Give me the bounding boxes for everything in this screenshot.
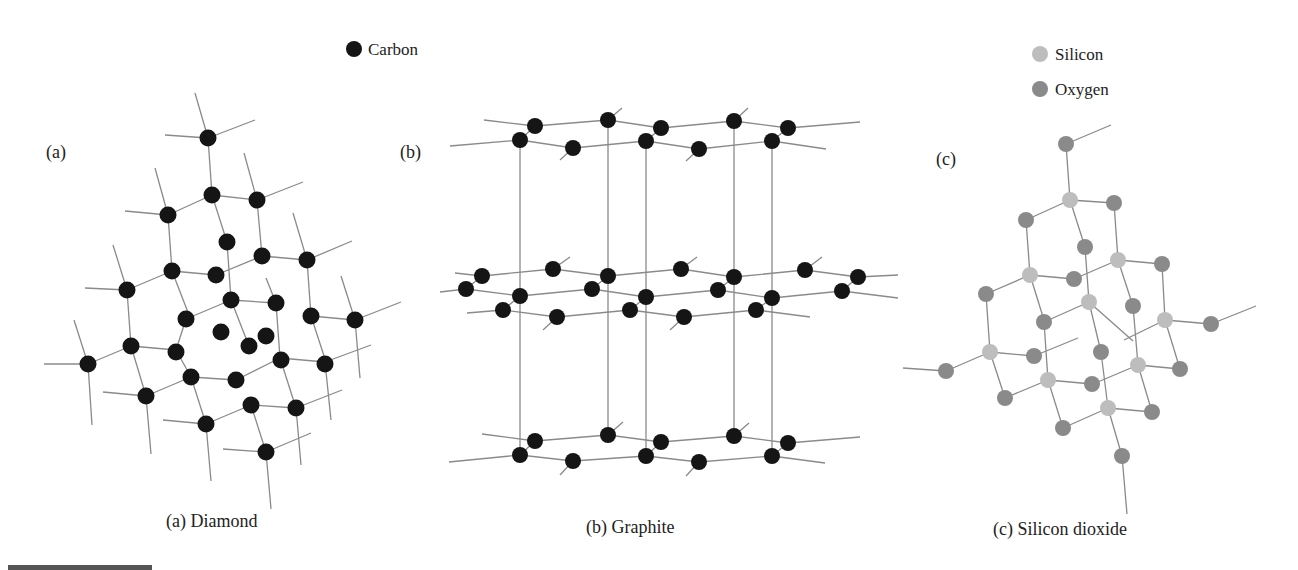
panel-c-tag: (c) [936, 149, 956, 170]
caption-silicon-dioxide: (c) Silicon dioxide [993, 519, 1127, 540]
graphite-structure [440, 108, 898, 476]
caption-graphite: (b) Graphite [586, 517, 674, 538]
panel-b-tag: (b) [400, 142, 421, 163]
carbon-swatch-icon [346, 41, 362, 57]
silicon-dioxide-structure [903, 125, 1256, 514]
diamond-structure [44, 93, 401, 509]
page-edge-bar [8, 565, 152, 570]
caption-diamond: (a) Diamond [166, 511, 257, 532]
legend-oxygen-label: Oxygen [1055, 80, 1109, 99]
legend-silicon-label: Silicon [1055, 45, 1104, 64]
crystal-structures-figure: Carbon (a) (b) (c) [0, 0, 1298, 570]
legend-carbon-label: Carbon [368, 40, 419, 59]
panel-a-tag: (a) [46, 142, 66, 163]
oxygen-swatch-icon [1032, 81, 1048, 97]
legend-carbon: Carbon [346, 40, 419, 59]
silicon-swatch-icon [1032, 46, 1048, 62]
silicon-legend: Silicon Oxygen [1032, 45, 1109, 99]
